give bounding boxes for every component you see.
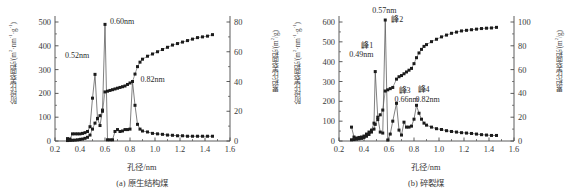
annotation-052nm: 0.52nm <box>65 52 89 60</box>
svg-text:500: 500 <box>322 38 335 47</box>
svg-text:0.8: 0.8 <box>409 145 419 154</box>
svg-text:0.6: 0.6 <box>384 145 394 154</box>
svg-text:300: 300 <box>38 66 51 75</box>
svg-text:200: 200 <box>38 89 51 98</box>
svg-text:20: 20 <box>518 113 526 122</box>
svg-text:100: 100 <box>322 117 335 126</box>
svg-text:1.4: 1.4 <box>484 145 495 154</box>
panel-caption-b: (b) 碎裂煤 <box>284 176 568 188</box>
svg-text:200: 200 <box>322 97 335 106</box>
annotation-peak2-label: 峰2 <box>391 16 403 24</box>
x-axis-label-b: 孔径/nm <box>284 160 568 172</box>
annotation-peak1-value: 0.49nm <box>349 51 373 59</box>
svg-text:20: 20 <box>234 107 242 116</box>
svg-text:300: 300 <box>322 78 335 87</box>
svg-text:0.4: 0.4 <box>359 145 370 154</box>
svg-text:0.2: 0.2 <box>334 145 344 154</box>
svg-text:1.2: 1.2 <box>459 145 469 154</box>
svg-text:60: 60 <box>518 66 526 75</box>
svg-text:1.4: 1.4 <box>200 145 211 154</box>
y-axis-label-right-b: 累积比表面积/(m2/g) <box>555 30 565 92</box>
svg-text:40: 40 <box>518 89 526 98</box>
annotation-peak1-label: 峰1 <box>361 42 373 50</box>
svg-text:1.6: 1.6 <box>509 145 519 154</box>
svg-text:60: 60 <box>234 48 242 57</box>
svg-text:40: 40 <box>234 78 242 87</box>
svg-text:1.0: 1.0 <box>434 145 444 154</box>
svg-text:80: 80 <box>234 18 242 27</box>
svg-text:1.2: 1.2 <box>175 145 185 154</box>
svg-text:80: 80 <box>518 42 526 51</box>
y-axis-label-left-a: 阶段比表面积/(m2·nm-1·g-1) <box>9 22 19 104</box>
svg-text:0.8: 0.8 <box>125 145 135 154</box>
annotation-peak4-value: 0.82nm <box>416 96 440 104</box>
svg-text:1.0: 1.0 <box>150 145 160 154</box>
svg-text:400: 400 <box>38 42 51 51</box>
svg-text:600: 600 <box>322 18 335 27</box>
y-axis-label-left-b: 阶段比表面积/(m2·nm-1·g-1) <box>293 22 303 104</box>
svg-text:400: 400 <box>322 58 335 67</box>
chart-panel-a: 01002003004005000204060800.20.40.60.81.0… <box>0 0 284 196</box>
annotation-082nm: 0.82nm <box>141 76 165 84</box>
y-axis-label-right-a: 累积比表面积/(m2/g) <box>271 30 281 92</box>
annotation-peak4-label: 峰4 <box>418 86 430 94</box>
svg-text:500: 500 <box>38 18 51 27</box>
annotation-060nm: 0.60nm <box>110 18 134 26</box>
svg-text:100: 100 <box>38 113 51 122</box>
panel-caption-a: (a) 原生结构煤 <box>0 176 284 188</box>
svg-text:1.6: 1.6 <box>225 145 235 154</box>
x-axis-label-a: 孔径/nm <box>0 160 284 172</box>
chart-panel-b: 01002003004005006000204060801000.20.40.6… <box>284 0 568 196</box>
svg-text:0.6: 0.6 <box>100 145 110 154</box>
svg-text:0.2: 0.2 <box>50 145 60 154</box>
svg-text:0.4: 0.4 <box>75 145 86 154</box>
figure-container: 01002003004005000204060800.20.40.60.81.0… <box>0 0 568 196</box>
svg-text:100: 100 <box>518 18 531 27</box>
